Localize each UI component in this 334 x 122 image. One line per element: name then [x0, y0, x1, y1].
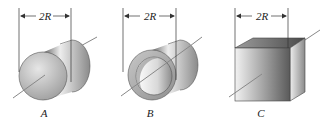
- cube-front-face: [235, 48, 290, 101]
- shape-label: C: [257, 107, 265, 119]
- shape-b-hollow-cylinder: 2R B: [121, 8, 202, 119]
- dimension-label: 2R: [39, 10, 52, 22]
- dimension-label: 2R: [256, 10, 269, 22]
- dimension-label: 2R: [144, 10, 157, 22]
- arrow-right-icon: [282, 14, 287, 19]
- shape-c-cube: 2R C: [229, 8, 320, 119]
- arrow-right-icon: [65, 14, 70, 19]
- shape-a-solid-cylinder: 2R A: [13, 8, 97, 119]
- arrow-left-icon: [20, 14, 25, 19]
- arrow-right-icon: [170, 14, 175, 19]
- cube-side-face: [290, 38, 305, 101]
- axis-line: [305, 30, 320, 40]
- arrow-left-icon: [124, 14, 129, 19]
- figure-canvas: 2R A 2R B 2R C: [0, 0, 334, 122]
- shape-label: A: [40, 107, 48, 119]
- arrow-left-icon: [236, 14, 241, 19]
- shape-label: B: [147, 107, 154, 119]
